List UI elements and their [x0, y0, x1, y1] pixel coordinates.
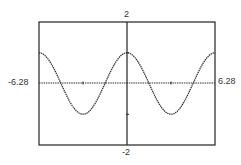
x-min-label: -6.28 — [8, 77, 29, 87]
x-max-label: 6.28 — [218, 76, 236, 86]
cosine-plot — [0, 0, 241, 165]
y-min-label: -2 — [122, 147, 130, 157]
y-max-label: 2 — [124, 9, 129, 19]
